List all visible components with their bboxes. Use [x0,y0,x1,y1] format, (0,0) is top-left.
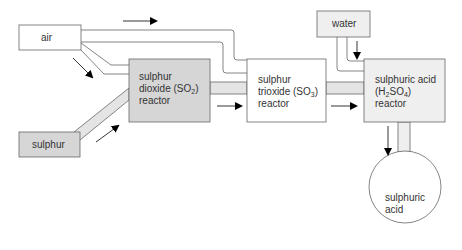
water-pipe [337,37,364,71]
pipe-to-product [398,122,410,152]
pipe-so2-to-so3 [210,82,247,94]
so2-reactor-label: sulphur dioxide (SO2) reactor [139,71,199,107]
h2so4-line1: sulphuric acid [375,74,436,86]
h2so4-line3: reactor [375,98,436,110]
so3-line3: reactor [258,98,318,110]
sulphur-label: sulphur [32,139,65,151]
arrow-air-down [73,58,92,77]
product-line1: sulphuric [385,192,425,204]
air-pipe-to-so2 [81,43,129,74]
product-line2: acid [385,204,425,216]
air-label: air [41,32,52,44]
so2-line2: dioxide (SO2) [139,83,199,95]
water-label: water [332,18,356,30]
h2so4-reactor-label: sulphuric acid (H2SO4) reactor [375,74,436,110]
pipe-so3-to-h2so4 [326,82,364,94]
so2-line3: reactor [139,95,199,107]
product-label: sulphuric acid [385,192,425,216]
so3-line2: trioxide (SO3) [258,86,318,98]
so3-line1: sulphur [258,74,318,86]
h2so4-line2: (H2SO4) [375,86,436,98]
so3-reactor-label: sulphur trioxide (SO3) reactor [258,74,318,110]
so2-line1: sulphur [139,71,199,83]
arrow-sulphur [96,126,118,142]
sulphur-pipe [74,88,129,140]
